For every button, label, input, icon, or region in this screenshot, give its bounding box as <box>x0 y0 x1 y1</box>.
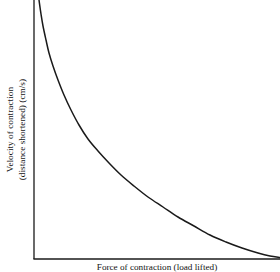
figure-container: Velocity of contraction (distance shorte… <box>0 0 280 272</box>
plot-area <box>0 0 280 272</box>
plot-background <box>0 0 280 272</box>
